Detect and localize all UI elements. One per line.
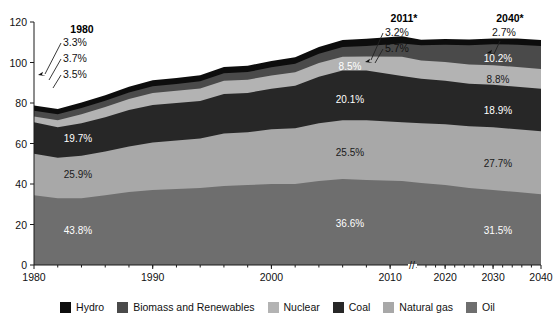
- year-header-2040: 2040*: [496, 12, 524, 24]
- legend-label: Oil: [482, 301, 495, 313]
- leader-1980-nuclear: [53, 75, 61, 88]
- x-tick-label-2000: 2000: [260, 271, 284, 283]
- legend-swatch-icon: [60, 302, 71, 313]
- year-header-1980: 1980: [70, 23, 94, 35]
- legend-item-natural-gas[interactable]: Natural gas: [383, 301, 453, 313]
- share-label-2040-coal: 18.9%: [484, 105, 512, 116]
- share-label-2011-coal: 20.1%: [336, 94, 364, 105]
- y-tick-label-60: 60: [15, 138, 27, 150]
- callout-2040-hydro: 2.7%: [492, 26, 516, 38]
- callout-1980-nuclear: 3.5%: [63, 68, 87, 80]
- callout-1980-hydro: 3.3%: [63, 36, 87, 48]
- area-bands-group: [34, 36, 541, 265]
- legend-swatch-icon: [268, 302, 279, 313]
- axis-break-marker: //: [409, 259, 415, 271]
- legend-swatch-icon: [333, 302, 344, 313]
- legend-item-nuclear[interactable]: Nuclear: [268, 301, 320, 313]
- share-label-1980-coal: 19.7%: [64, 133, 92, 144]
- share-label-2011-nuclear: 8.5%: [339, 61, 362, 72]
- share-label-1980-natural-gas: 25.9%: [64, 169, 92, 180]
- x-tick-label-2040: 2040: [529, 271, 553, 283]
- year-header-2011: 2011*: [391, 12, 419, 24]
- y-tick-label-80: 80: [15, 97, 27, 109]
- y-tick-label-40: 40: [15, 178, 27, 190]
- legend-swatch-icon: [117, 302, 128, 313]
- share-label-1980-oil: 43.8%: [64, 225, 92, 236]
- legend-label: Biomass and Renewables: [133, 301, 254, 313]
- x-tick-label-1990: 1990: [141, 271, 165, 283]
- chart-legend: HydroBiomass and RenewablesNuclearCoalNa…: [0, 296, 555, 318]
- stacked-area-chart: // 0204060801001201980199020002010202020…: [0, 0, 555, 327]
- legend-item-oil[interactable]: Oil: [466, 301, 495, 313]
- share-label-2040-nuclear: 8.8%: [487, 74, 510, 85]
- arrow-1980: [38, 72, 46, 76]
- legend-label: Natural gas: [399, 301, 453, 313]
- legend-item-biomass-and-renewables[interactable]: Biomass and Renewables: [117, 301, 254, 313]
- legend-label: Hydro: [76, 301, 104, 313]
- share-label-2011-oil: 36.6%: [336, 218, 364, 229]
- share-label-2040-natural-gas: 27.7%: [484, 158, 512, 169]
- plot-area: // 0204060801001201980199020002010202020…: [0, 0, 555, 296]
- legend-label: Coal: [349, 301, 371, 313]
- callout-2011-hydro: 3.2%: [385, 26, 409, 38]
- share-label-2040-oil: 31.5%: [484, 225, 512, 236]
- x-tick-label-2020: 2020: [433, 271, 457, 283]
- x-tick-label-1980: 1980: [22, 271, 46, 283]
- y-tick-label-100: 100: [9, 57, 27, 69]
- x-tick-label-2030: 2030: [481, 271, 505, 283]
- legend-item-coal[interactable]: Coal: [333, 301, 371, 313]
- legend-swatch-icon: [383, 302, 394, 313]
- legend-label: Nuclear: [284, 301, 320, 313]
- share-label-2011-natural-gas: 25.5%: [336, 147, 364, 158]
- y-tick-label-120: 120: [9, 16, 27, 28]
- legend-item-hydro[interactable]: Hydro: [60, 301, 104, 313]
- y-tick-label-20: 20: [15, 219, 27, 231]
- callout-1980-biomass: 3.7%: [63, 52, 87, 64]
- legend-swatch-icon: [466, 302, 477, 313]
- share-label-2040-biomass-and-renewables: 10.2%: [484, 53, 512, 64]
- callout-2011-biomass: 5.7%: [385, 42, 409, 54]
- y-tick-label-0: 0: [21, 259, 27, 271]
- x-tick-label-2010: 2010: [378, 271, 402, 283]
- leader-1980-hydro: [45, 43, 61, 74]
